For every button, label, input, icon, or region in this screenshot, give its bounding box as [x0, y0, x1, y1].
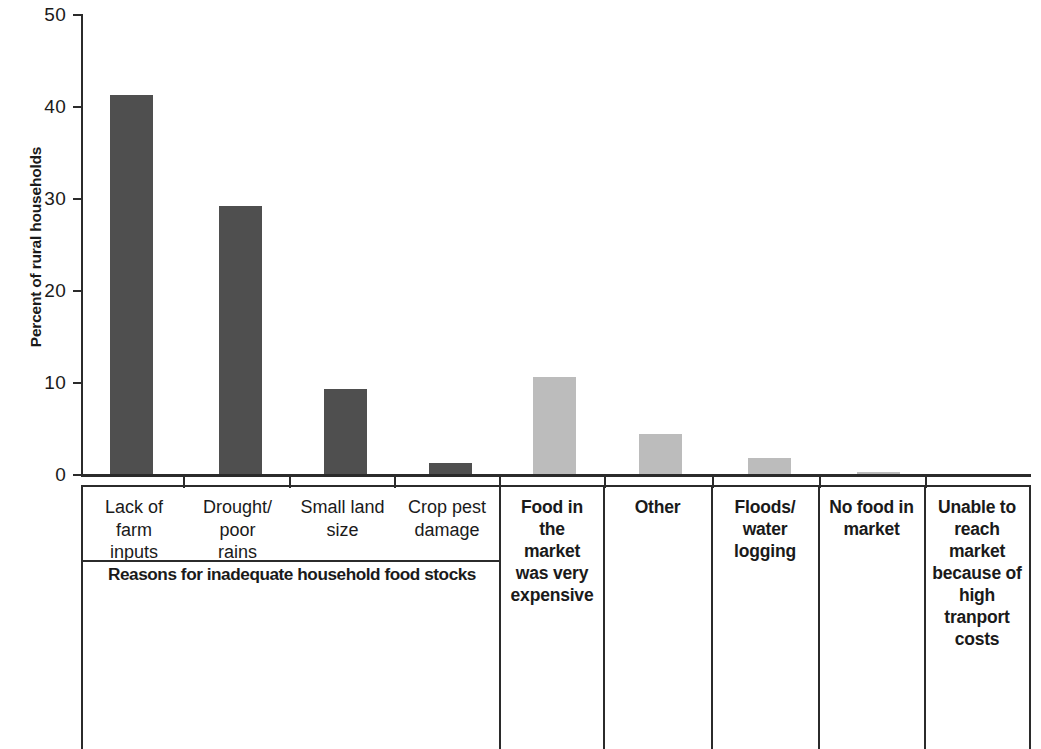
category-label-crop-pest-damage: Crop pest damage — [395, 487, 499, 541]
category-line: size — [293, 519, 392, 542]
bar-lack-of-farm-inputs — [110, 95, 153, 475]
category-line: was very — [504, 562, 600, 584]
bar-other — [639, 434, 682, 475]
category-label-drought-poor-rains: Drought/ poor rains — [185, 487, 290, 564]
category-box-other: Other — [604, 485, 713, 749]
category-box-food-in-market-expensive: Food in the market was very expensive — [499, 485, 605, 749]
category-label-unable-to-reach-market: Unable to reach market because of high t… — [925, 487, 1029, 650]
category-line: Food in — [504, 496, 600, 518]
x-axis-line — [81, 474, 1031, 477]
chart-page: Percent of rural households 50 40 30 20 … — [0, 0, 1041, 749]
category-label-floods-water-logging: Floods/ water logging — [712, 487, 818, 562]
category-line: Other — [607, 496, 708, 518]
category-line: Lack of — [86, 496, 182, 519]
category-box-small-land-size: Small land size — [290, 485, 395, 562]
group-label-box — [81, 562, 501, 749]
category-box-lack-of-farm-inputs: Lack of farm inputs — [81, 485, 185, 562]
category-line: high — [928, 584, 1026, 606]
category-label-lack-of-farm-inputs: Lack of farm inputs — [83, 487, 185, 564]
category-label-food-in-market-expensive: Food in the market was very expensive — [501, 487, 603, 606]
category-line: logging — [715, 540, 815, 562]
category-box-drought-poor-rains: Drought/ poor rains — [185, 485, 290, 562]
bar-floods-water-logging — [748, 458, 791, 475]
category-line: No food in — [822, 496, 921, 518]
category-box-floods-water-logging: Floods/ water logging — [712, 485, 820, 749]
category-box-no-food-in-market: No food in market — [819, 485, 926, 749]
category-line: Floods/ — [715, 496, 815, 518]
category-line: Unable to — [928, 496, 1026, 518]
bar-food-in-market-expensive — [533, 377, 576, 475]
category-line: costs — [928, 628, 1026, 650]
category-line: reach — [928, 518, 1026, 540]
category-line: market — [928, 540, 1026, 562]
category-line: damage — [398, 519, 496, 542]
category-label-small-land-size: Small land size — [290, 487, 395, 541]
category-line: market — [504, 540, 600, 562]
bar-drought-poor-rains — [219, 206, 262, 475]
category-line: water — [715, 518, 815, 540]
plot-area — [0, 0, 1041, 477]
category-box-crop-pest-damage: Crop pest damage — [395, 485, 501, 562]
category-line: Small land — [293, 496, 392, 519]
category-line: Crop pest — [398, 496, 496, 519]
category-line: farm — [86, 519, 182, 542]
category-line: Drought/ — [188, 496, 287, 519]
category-box-unable-to-reach-market: Unable to reach market because of high t… — [925, 485, 1031, 749]
category-line: because of — [928, 562, 1026, 584]
category-line: the — [504, 518, 600, 540]
category-label-no-food-in-market: No food in market — [819, 487, 924, 540]
category-line: tranport — [928, 606, 1026, 628]
category-label-other: Other — [604, 487, 711, 518]
category-line: poor — [188, 519, 287, 542]
bar-small-land-size — [324, 389, 367, 475]
category-line: expensive — [504, 584, 600, 606]
category-line: market — [822, 518, 921, 540]
